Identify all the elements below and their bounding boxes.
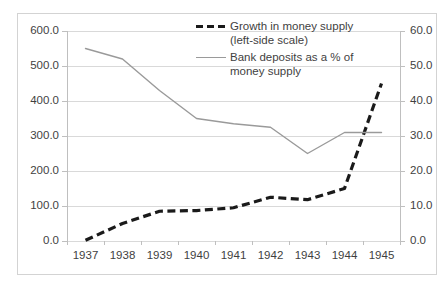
x-axis-tick-label: 1942 xyxy=(258,249,284,261)
x-axis-tick-label: 1944 xyxy=(332,249,358,261)
x-axis-tick xyxy=(252,241,253,245)
x-axis-tick xyxy=(67,241,68,245)
left-axis-tick-label: 500.0 xyxy=(13,60,59,71)
x-axis-tick xyxy=(289,241,290,245)
chart-container: 600.0500.0400.0300.0200.0100.00.0 60.050… xyxy=(0,0,447,292)
left-axis-tick-label: 600.0 xyxy=(13,25,59,36)
right-axis-tick-label: 30.0 xyxy=(410,130,447,141)
right-axis-line xyxy=(400,31,401,241)
series-line-growth-in-money-supply xyxy=(86,84,382,241)
solid-line-swatch-icon xyxy=(196,51,226,64)
x-axis-tick-label: 1941 xyxy=(221,249,247,261)
x-axis-tick-label: 1938 xyxy=(110,249,136,261)
x-axis-tick xyxy=(400,241,401,245)
x-axis-tick xyxy=(141,241,142,245)
x-axis-tick-label: 1940 xyxy=(184,249,210,261)
x-axis-tick xyxy=(363,241,364,245)
legend-label-growth-in-money-supply: Growth in money supply (left-side scale) xyxy=(230,20,366,47)
x-axis-tick xyxy=(215,241,216,245)
legend-label-bank-deposits: Bank deposits as a % of money supply xyxy=(230,51,366,78)
left-axis-tick-label: 200.0 xyxy=(13,165,59,176)
right-axis-tick-label: 60.0 xyxy=(410,25,447,36)
x-axis-tick xyxy=(178,241,179,245)
legend: Growth in money supply (left-side scale)… xyxy=(196,20,366,82)
x-axis-tick-label: 1937 xyxy=(73,249,99,261)
legend-item-growth-in-money-supply: Growth in money supply (left-side scale) xyxy=(196,20,366,47)
x-axis-tick-label: 1939 xyxy=(147,249,173,261)
right-axis-tick-label: 50.0 xyxy=(410,60,447,71)
x-axis-tick xyxy=(326,241,327,245)
left-axis-tick-label: 100.0 xyxy=(13,200,59,211)
right-axis-tick-label: 20.0 xyxy=(410,165,447,176)
left-axis-tick-label: 0.0 xyxy=(13,235,59,246)
left-axis-tick-label: 300.0 xyxy=(13,130,59,141)
right-axis-tick-label: 40.0 xyxy=(410,95,447,106)
right-axis-tick-label: 10.0 xyxy=(410,200,447,211)
dashed-line-swatch-icon xyxy=(196,20,226,33)
right-axis-tick-label: 0.0 xyxy=(410,235,447,246)
x-axis-tick-label: 1945 xyxy=(369,249,395,261)
x-axis-tick xyxy=(104,241,105,245)
left-axis-tick-label: 400.0 xyxy=(13,95,59,106)
x-axis-tick-label: 1943 xyxy=(295,249,321,261)
gridline xyxy=(67,241,400,242)
legend-item-bank-deposits: Bank deposits as a % of money supply xyxy=(196,51,366,78)
